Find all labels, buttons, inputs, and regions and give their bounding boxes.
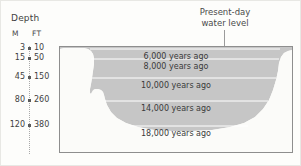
depth-tick-mark (28, 76, 31, 79)
depth-axis-title: Depth (11, 13, 39, 23)
depth-value-feet: 50 (34, 53, 44, 62)
callout-leader-line (224, 30, 225, 47)
callout-line-2: water level (166, 18, 284, 29)
depth-tick-row: 1550 (1, 53, 59, 63)
depth-value-feet: 380 (34, 120, 49, 129)
lake-cross-section: 6,000 years ago8,000 years ago10,000 yea… (59, 46, 293, 153)
depth-tick-row: 310 (1, 43, 59, 53)
depth-value-feet: 10 (34, 43, 44, 52)
depth-tick-mark (28, 47, 31, 50)
depth-unit-feet: FT (32, 29, 41, 38)
depth-value-meters: 120 (10, 120, 25, 129)
cross-section-graphic (60, 47, 292, 152)
depth-unit-meters: M (12, 29, 19, 38)
depth-tick-mark (28, 57, 31, 60)
depth-tick-mark (28, 99, 31, 102)
depth-tick-mark (28, 124, 31, 127)
depth-value-meters: 15 (15, 53, 25, 62)
depth-tick-row: 80260 (1, 95, 59, 105)
depth-value-meters: 80 (15, 95, 25, 104)
callout-line-1: Present-day (166, 7, 284, 18)
depth-tick-row: 45150 (1, 72, 59, 82)
lake-level-diagram: Depth M FT 31015504515080260120380 Prese… (0, 0, 301, 166)
depth-value-meters: 45 (15, 72, 25, 81)
depth-value-meters: 3 (20, 43, 25, 52)
depth-value-feet: 260 (34, 95, 49, 104)
depth-tick-row: 120380 (1, 120, 59, 130)
depth-value-feet: 150 (34, 72, 49, 81)
depth-axis: Depth M FT 31015504515080260120380 (1, 1, 59, 166)
present-day-water-level-callout: Present-day water level (166, 7, 284, 29)
